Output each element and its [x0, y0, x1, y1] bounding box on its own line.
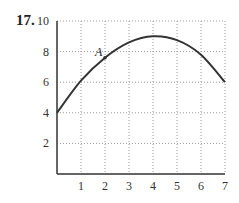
x-tick-label: 7: [222, 179, 228, 193]
x-tick-label: 3: [126, 179, 132, 193]
function-curve: [57, 36, 225, 113]
x-tick-label: 1: [78, 179, 84, 193]
y-tick-label: 8: [43, 45, 49, 59]
x-tick-label: 6: [198, 179, 204, 193]
x-tick-label: 4: [150, 179, 156, 193]
y-tick-label: 6: [43, 75, 49, 89]
y-tick-label: 10: [37, 14, 49, 28]
chart: 1234567246810A: [0, 0, 239, 203]
y-tick-label: 2: [43, 136, 49, 150]
x-tick-label: 5: [174, 179, 180, 193]
y-tick-label: 4: [43, 106, 49, 120]
point-marker: [103, 56, 107, 60]
point-label: A: [94, 45, 103, 59]
x-tick-label: 2: [102, 179, 108, 193]
